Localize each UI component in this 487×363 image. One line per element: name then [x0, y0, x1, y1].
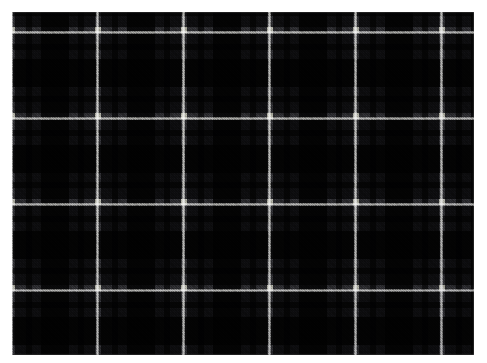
tartan-fabric-swatch — [12, 12, 474, 355]
fabric-ground-layer — [12, 12, 474, 355]
vignette-overlay — [12, 12, 474, 355]
swatch-edge-softening — [12, 12, 474, 355]
weft-stripes-layer — [12, 12, 474, 355]
twill-weave-texture — [12, 12, 474, 355]
warp-stripes-layer — [12, 12, 474, 355]
image-canvas — [0, 0, 487, 363]
horizontal-overcheck-lines — [12, 12, 474, 355]
vertical-overcheck-lines — [12, 12, 474, 355]
yarn-grain-texture — [12, 12, 474, 355]
